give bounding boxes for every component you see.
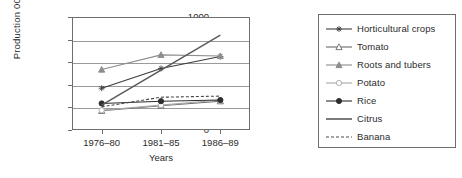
legend-label: Banana (354, 132, 390, 142)
legend-label: Citrus (354, 114, 382, 124)
legend-label: Rice (354, 96, 376, 106)
x-tick-mark-0 (102, 130, 103, 134)
y-tick-mark-0 (68, 130, 72, 131)
marker-filled-circle (336, 98, 341, 103)
legend-swatch-solid-line-icon (324, 110, 354, 128)
x-tick-mark-1 (161, 130, 162, 134)
legend-item-tomato[interactable]: Tomato (324, 38, 451, 56)
marker-star (336, 26, 342, 32)
series-layer (72, 17, 250, 130)
legend-item-roots-and-tubers[interactable]: Roots and tubers (324, 56, 451, 74)
legend-swatch-star-icon (324, 20, 354, 38)
marker-filled-circle (218, 97, 223, 102)
legend-swatch-dashed-line-icon (324, 128, 354, 146)
chart-container: Production 000't 10008006004002000 1976–… (0, 0, 462, 178)
y-axis-title: Production 000't (11, 0, 22, 78)
marker-star (99, 85, 105, 91)
x-axis-title: Years (72, 152, 250, 163)
legend-label: Tomato (354, 42, 389, 52)
legend: Horticultural cropsTomatoRoots and tuber… (318, 14, 456, 148)
marker-open-circle (336, 80, 341, 85)
marker-filled-circle (158, 99, 163, 104)
legend-swatch-open-triangle-icon (324, 38, 354, 56)
legend-item-banana[interactable]: Banana (324, 128, 451, 146)
legend-label: Roots and tubers (354, 60, 431, 70)
series-line-citrus (102, 35, 221, 105)
legend-swatch-filled-triangle-icon (324, 56, 354, 74)
marker-open-circle (99, 108, 104, 113)
x-tick-label-2: 1986–89 (185, 137, 255, 148)
series-line-horticultural-crops (102, 57, 221, 89)
legend-item-citrus[interactable]: Citrus (324, 110, 451, 128)
legend-item-potato[interactable]: Potato (324, 74, 451, 92)
legend-swatch-open-circle-icon (324, 74, 354, 92)
x-tick-mark-2 (220, 130, 221, 134)
legend-swatch-filled-circle-icon (324, 92, 354, 110)
legend-label: Horticultural crops (354, 24, 435, 34)
legend-item-horticultural-crops[interactable]: Horticultural crops (324, 20, 451, 38)
legend-item-rice[interactable]: Rice (324, 92, 451, 110)
legend-label: Potato (354, 78, 385, 88)
